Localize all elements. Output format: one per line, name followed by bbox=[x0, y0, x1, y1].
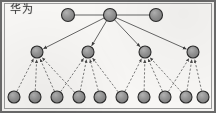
dashed-edge bbox=[187, 60, 192, 91]
graph-node-b8[interactable] bbox=[159, 91, 171, 103]
graph-node-m4[interactable] bbox=[187, 46, 199, 58]
solid-edge bbox=[114, 20, 140, 47]
solid-edge bbox=[116, 18, 186, 49]
graph-node-m2[interactable] bbox=[82, 46, 94, 58]
dashed-edge bbox=[17, 59, 34, 91]
graph-canvas bbox=[0, 0, 216, 113]
dashed-edge bbox=[93, 58, 119, 92]
dashed-edge bbox=[80, 59, 86, 90]
graph-node-b6[interactable] bbox=[116, 91, 128, 103]
graph-node-b1[interactable] bbox=[8, 91, 20, 103]
solid-edge bbox=[92, 21, 107, 46]
graph-node-b2[interactable] bbox=[29, 91, 41, 103]
dashed-edge bbox=[40, 59, 54, 91]
graph-node-b7[interactable] bbox=[138, 91, 150, 103]
dashed-edge bbox=[35, 60, 36, 91]
dashed-edge bbox=[148, 59, 162, 91]
dashed-edge bbox=[61, 58, 84, 91]
graph-node-t1[interactable] bbox=[62, 9, 75, 22]
graph-node-b4[interactable] bbox=[73, 91, 85, 103]
figure-caption-label: 华为 bbox=[10, 4, 34, 16]
graph-node-b10[interactable] bbox=[197, 91, 209, 103]
solid-edge bbox=[43, 18, 104, 49]
graph-node-m3[interactable] bbox=[139, 46, 151, 58]
graph-node-b5[interactable] bbox=[94, 91, 106, 103]
dashed-edge bbox=[144, 60, 145, 91]
graph-node-t2[interactable] bbox=[104, 9, 117, 22]
huawei-hierarchy-figure: 华为 bbox=[0, 0, 216, 113]
dashed-edge bbox=[168, 58, 189, 91]
graph-node-b3[interactable] bbox=[51, 91, 63, 103]
graph-node-b9[interactable] bbox=[180, 91, 192, 103]
graph-node-t3[interactable] bbox=[150, 9, 163, 22]
dashed-edge bbox=[125, 59, 142, 91]
dashed-edge bbox=[195, 59, 202, 90]
dashed-edge bbox=[90, 59, 98, 90]
graph-node-m1[interactable] bbox=[31, 46, 43, 58]
dashed-edge-group bbox=[17, 58, 202, 93]
